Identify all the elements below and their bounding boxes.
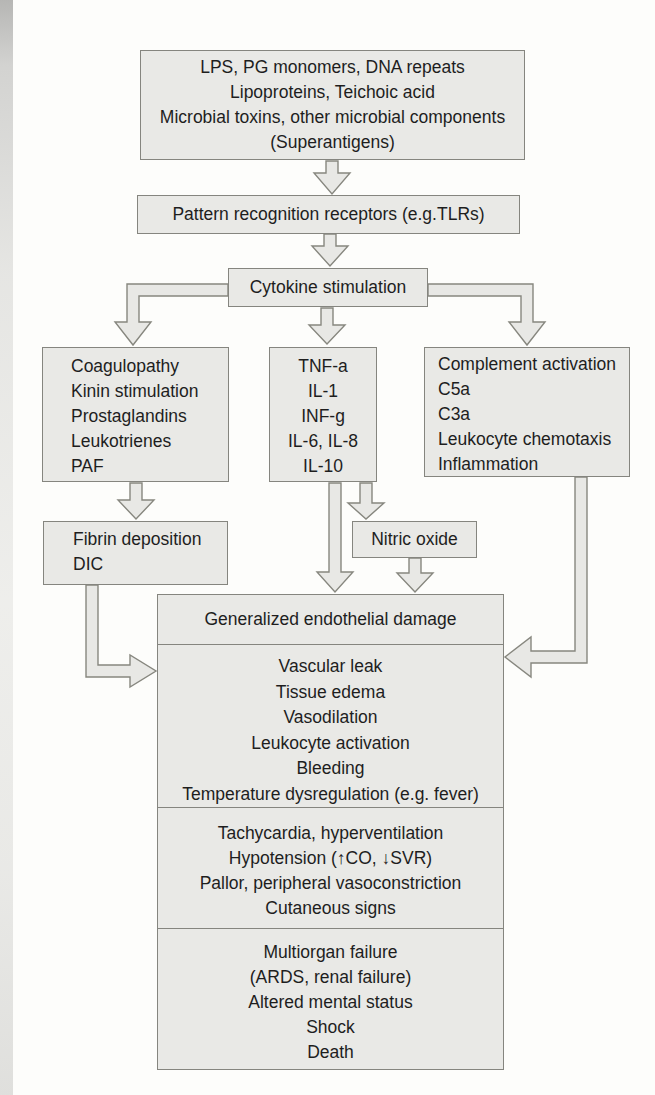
- arrow-cytokine-to-complement: [428, 284, 545, 345]
- box-line: Bleeding: [158, 756, 503, 782]
- box-line: Cytokine stimulation: [229, 275, 427, 300]
- box-line: C3a: [438, 402, 629, 427]
- box-line: DIC: [73, 552, 227, 577]
- arrow-fibrin-to-endothelial: [86, 585, 156, 687]
- section-hemodynamic-signs: Tachycardia, hyperventilation Hypotensio…: [158, 808, 503, 929]
- box-line: Prostaglandins: [71, 404, 228, 429]
- box-line: Multiorgan failure: [158, 940, 503, 965]
- box-line: IL-10: [270, 454, 376, 479]
- box-line: IL-6, IL-8: [270, 429, 376, 454]
- box-line: Hypotension (↑CO, ↓SVR): [158, 846, 503, 871]
- box-line: Vascular leak: [158, 654, 503, 680]
- arrow-coagulation-to-fibrin: [118, 483, 154, 519]
- box-line: (ARDS, renal failure): [158, 965, 503, 990]
- box-line: Pattern recognition receptors (e.g.TLRs): [138, 202, 519, 227]
- box-line: LPS, PG monomers, DNA repeats: [141, 55, 524, 80]
- box-line: Shock: [158, 1015, 503, 1040]
- box-line: Pallor, peripheral vasoconstriction: [158, 871, 503, 896]
- box-line: Kinin stimulation: [71, 379, 228, 404]
- box-line: Death: [158, 1040, 503, 1065]
- box-line: Tachycardia, hyperventilation: [158, 821, 503, 846]
- box-line: Tissue edema: [158, 680, 503, 706]
- box-line: Vasodilation: [158, 705, 503, 731]
- box-line: PAF: [71, 454, 228, 479]
- box-systemic-effects: Generalized endothelial damage Vascular …: [157, 594, 504, 1070]
- box-line: Leukotrienes: [71, 429, 228, 454]
- box-fibrin-dic: Fibrin deposition DIC: [43, 521, 228, 585]
- scanned-flowchart-page: { "colors":{ "page_bg":"#fdfdfb", "box_f…: [0, 0, 655, 1095]
- box-line: C5a: [438, 377, 629, 402]
- box-line: Coagulopathy: [71, 354, 228, 379]
- section-endothelial-effects: Vascular leak Tissue edema Vasodilation …: [158, 645, 503, 808]
- box-coagulation-mediators: Coagulopathy Kinin stimulation Prostagla…: [42, 347, 229, 482]
- box-line: Temperature dysregulation (e.g. fever): [158, 782, 503, 808]
- box-cytokines: TNF-a IL-1 INF-g IL-6, IL-8 IL-10: [269, 347, 377, 482]
- box-line: INF-g: [270, 404, 376, 429]
- arrow-nitric-oxide-to-endothelial: [397, 558, 433, 592]
- box-line: IL-1: [270, 379, 376, 404]
- box-line: Nitric oxide: [353, 527, 476, 552]
- section-title: Generalized endothelial damage: [158, 607, 503, 632]
- box-line: Leukocyte activation: [158, 731, 503, 757]
- box-nitric-oxide: Nitric oxide: [352, 521, 477, 558]
- arrow-cytokine-to-cytokines: [309, 308, 345, 344]
- arrow-cytokines-to-endothelial: [317, 483, 353, 592]
- section-endothelial-damage: Generalized endothelial damage: [158, 595, 503, 645]
- box-complement-activation: Complement activation C5a C3a Leukocyte …: [424, 347, 630, 477]
- box-line: Leukocyte chemotaxis: [438, 427, 629, 452]
- section-outcomes: Multiorgan failure (ARDS, renal failure)…: [158, 929, 503, 1071]
- arrow-cytokines-to-nitric-oxide: [348, 483, 384, 519]
- box-line: Inflammation: [438, 452, 629, 477]
- box-cytokine-stimulation: Cytokine stimulation: [228, 268, 428, 307]
- box-line: (Superantigens): [141, 130, 524, 155]
- box-line: TNF-a: [270, 354, 376, 379]
- box-line: Cutaneous signs: [158, 896, 503, 921]
- box-microbial-triggers: LPS, PG monomers, DNA repeats Lipoprotei…: [140, 50, 525, 160]
- box-line: Microbial toxins, other microbial compon…: [141, 105, 524, 130]
- box-pattern-recognition-receptors: Pattern recognition receptors (e.g.TLRs): [137, 195, 520, 234]
- box-line: Lipoproteins, Teichoic acid: [141, 80, 524, 105]
- arrow-prr-to-cytokine: [312, 234, 348, 266]
- box-line: Fibrin deposition: [73, 527, 227, 552]
- box-line: Altered mental status: [158, 990, 503, 1015]
- arrow-complement-to-endothelial: [505, 477, 587, 677]
- box-line: Complement activation: [438, 352, 629, 377]
- arrow-triggers-to-prr: [314, 161, 350, 194]
- arrow-cytokine-to-coagulation: [115, 284, 228, 345]
